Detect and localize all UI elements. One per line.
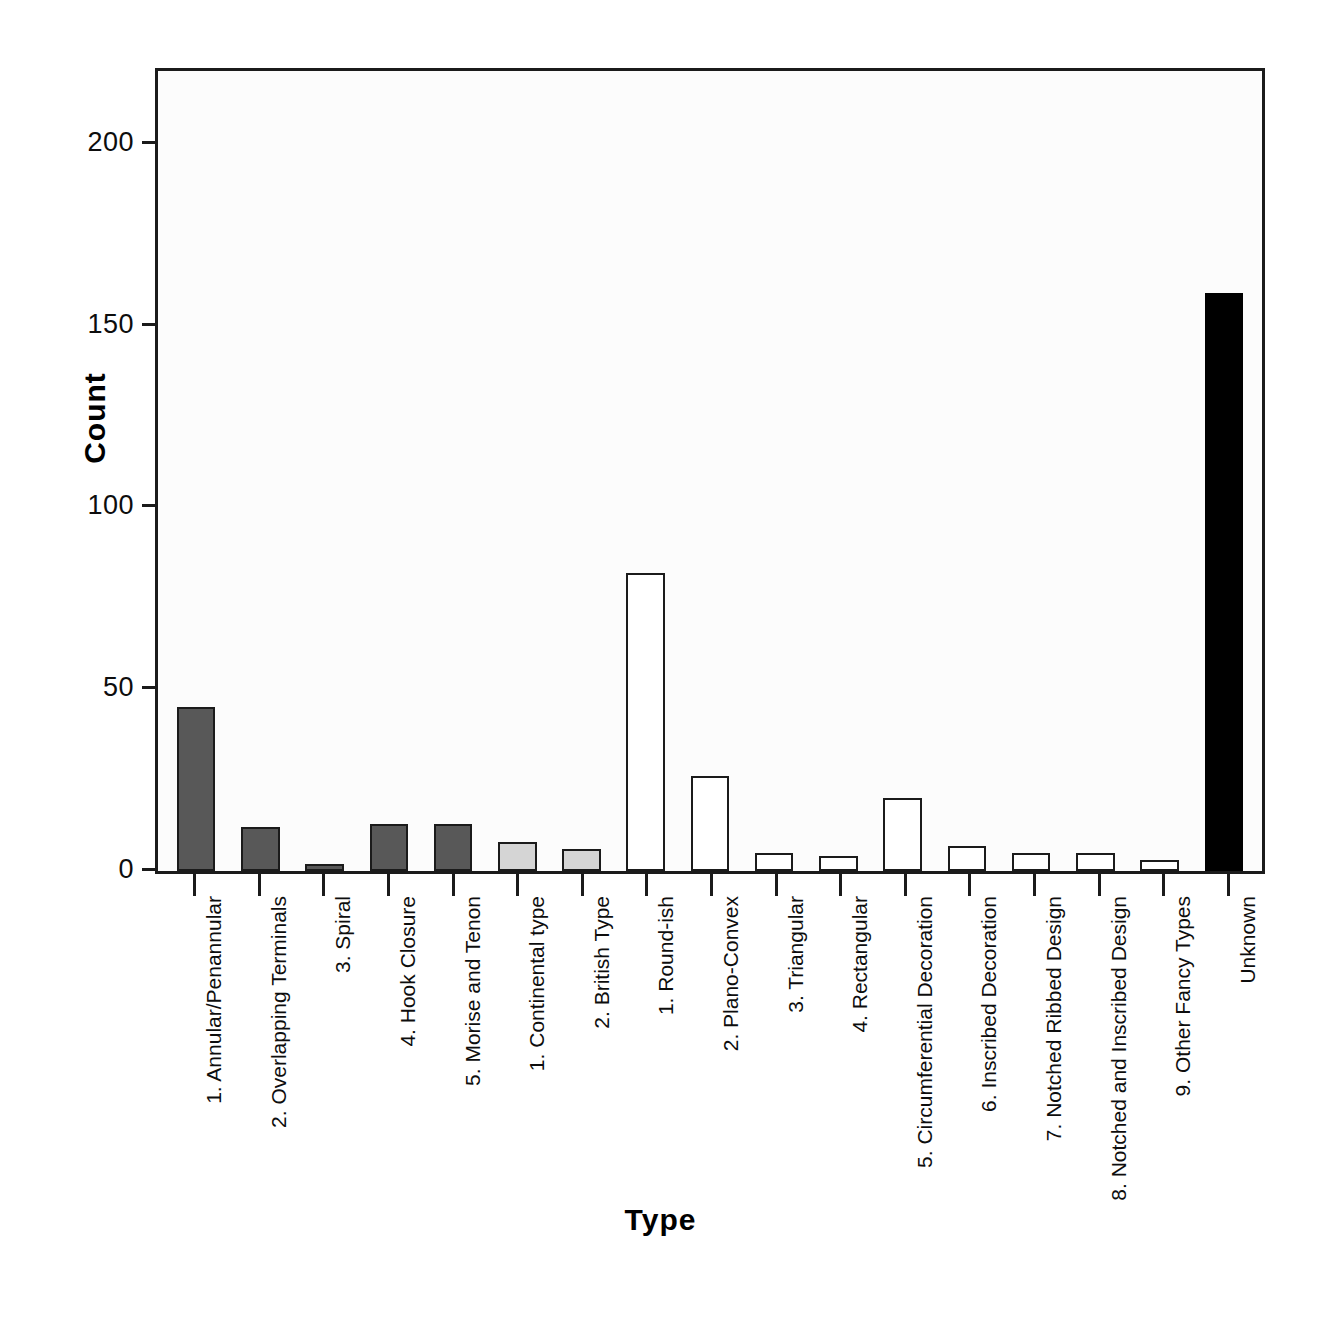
bar-series: [158, 71, 1262, 871]
x-tick-mark: [645, 874, 648, 896]
bar-chart-figure: Count 050100150200 1. Annular/Penannular…: [0, 0, 1321, 1327]
bar-slot: [742, 71, 806, 871]
bar[interactable]: [370, 824, 409, 871]
x-label-slot: 7. Notched Ribbed Design: [1001, 896, 1066, 1196]
bar[interactable]: [691, 776, 730, 871]
y-tick-label: 50: [103, 672, 134, 703]
x-tick-mark: [258, 874, 261, 896]
bar-slot: [999, 71, 1063, 871]
bar-slot: [292, 71, 356, 871]
x-tick-mark: [193, 874, 196, 896]
bar[interactable]: [948, 846, 987, 871]
bar-slot: [164, 71, 228, 871]
bar[interactable]: [1076, 853, 1115, 871]
bar[interactable]: [434, 824, 473, 871]
y-axis-title: Count: [78, 348, 118, 488]
bar[interactable]: [626, 573, 665, 871]
x-label-slot: 2. Plano-Convex: [678, 896, 743, 1196]
bar[interactable]: [498, 842, 537, 871]
x-label-slot: 6. Inscribed Decoration: [936, 896, 1001, 1196]
x-label-slot: 3. Spiral: [290, 896, 355, 1196]
bar[interactable]: [1205, 293, 1244, 871]
bar[interactable]: [241, 827, 280, 871]
x-label-slot: 2. Overlapping Terminals: [226, 896, 291, 1196]
x-axis-label: 3. Spiral: [331, 896, 355, 973]
x-axis-label: 8. Notched and Inscribed Design: [1107, 896, 1131, 1201]
x-tick-mark: [1227, 874, 1230, 896]
bar[interactable]: [883, 798, 922, 871]
x-label-slot: 1. Continental type: [484, 896, 549, 1196]
x-axis-label: 5. Morise and Tenon: [461, 896, 485, 1086]
x-axis-label: 2. Plano-Convex: [719, 896, 743, 1051]
x-label-slot: 4. Rectangular: [807, 896, 872, 1196]
x-tick-mark: [1098, 874, 1101, 896]
plot-area: 050100150200: [155, 68, 1265, 874]
x-axis-label: 4. Rectangular: [848, 896, 872, 1033]
y-tick-0: 0: [142, 868, 158, 871]
x-axis-label: 2. British Type: [590, 896, 614, 1029]
bar[interactable]: [562, 849, 601, 871]
bar-slot: [421, 71, 485, 871]
x-label-slot: 5. Circumferential Decoration: [872, 896, 937, 1196]
x-tick-mark: [387, 874, 390, 896]
bar[interactable]: [305, 864, 344, 871]
x-tick-mark: [968, 874, 971, 896]
x-label-slot: 3. Triangular: [742, 896, 807, 1196]
bar-slot: [549, 71, 613, 871]
x-axis-label: 2. Overlapping Terminals: [267, 896, 291, 1128]
bar-slot: [357, 71, 421, 871]
y-tick-label: 100: [87, 490, 134, 521]
x-axis-title: Type: [0, 1203, 1321, 1237]
x-axis-label: Unknown: [1236, 896, 1260, 984]
y-tick-label: 150: [87, 309, 134, 340]
bar-slot: [228, 71, 292, 871]
x-tick-mark: [710, 874, 713, 896]
x-axis-label: 9. Other Fancy Types: [1171, 896, 1195, 1096]
bar-slot: [806, 71, 870, 871]
x-tick-mark: [322, 874, 325, 896]
x-label-slot: 1. Annular/Penannular: [161, 896, 226, 1196]
x-tick-mark: [904, 874, 907, 896]
bar-slot: [614, 71, 678, 871]
y-tick-label: 200: [87, 127, 134, 158]
bar[interactable]: [1012, 853, 1051, 871]
x-label-slot: Unknown: [1195, 896, 1260, 1196]
x-axis-tick-labels: 1. Annular/Penannular2. Overlapping Term…: [155, 896, 1265, 1196]
bar-slot: [485, 71, 549, 871]
x-axis-label: 1. Annular/Penannular: [202, 896, 226, 1104]
x-tick-mark: [1033, 874, 1036, 896]
x-label-slot: 1. Round-ish: [613, 896, 678, 1196]
bar-slot: [1128, 71, 1192, 871]
x-axis-label: 3. Triangular: [784, 896, 808, 1013]
x-label-slot: 9. Other Fancy Types: [1130, 896, 1195, 1196]
x-axis-label: 1. Continental type: [525, 896, 549, 1071]
x-tick-mark: [1162, 874, 1165, 896]
x-tick-mark: [516, 874, 519, 896]
bar-slot: [1192, 71, 1256, 871]
x-tick-mark: [452, 874, 455, 896]
x-axis-label: 7. Notched Ribbed Design: [1042, 896, 1066, 1141]
bar-slot: [871, 71, 935, 871]
bar[interactable]: [1140, 860, 1179, 871]
bar-slot: [678, 71, 742, 871]
x-axis-label: 5. Circumferential Decoration: [913, 896, 937, 1168]
x-tick-mark: [775, 874, 778, 896]
x-label-slot: 2. British Type: [549, 896, 614, 1196]
x-label-slot: 4. Hook Closure: [355, 896, 420, 1196]
y-tick-label: 0: [118, 854, 134, 885]
y-tick-200: 200: [142, 141, 158, 144]
x-axis-label: 6. Inscribed Decoration: [977, 896, 1001, 1112]
y-tick-150: 150: [142, 323, 158, 326]
y-tick-100: 100: [142, 504, 158, 507]
bar[interactable]: [755, 853, 794, 871]
x-axis-label: 1. Round-ish: [654, 896, 678, 1015]
x-axis-label: 4. Hook Closure: [396, 896, 420, 1047]
bar[interactable]: [177, 707, 216, 871]
x-label-slot: 5. Morise and Tenon: [419, 896, 484, 1196]
bar[interactable]: [819, 856, 858, 871]
x-tick-mark: [581, 874, 584, 896]
y-tick-50: 50: [142, 686, 158, 689]
bar-slot: [1063, 71, 1127, 871]
x-tick-mark: [839, 874, 842, 896]
bar-slot: [935, 71, 999, 871]
